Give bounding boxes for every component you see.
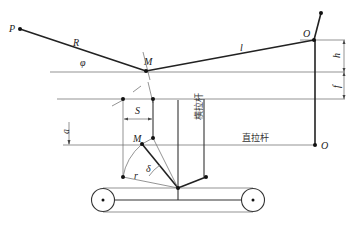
f-arrow-top <box>343 72 346 76</box>
h-arrow-bottom <box>343 68 346 72</box>
lower-arm-right <box>178 177 206 188</box>
left-pulley-center <box>102 199 105 202</box>
label-O-lower: O <box>321 140 328 151</box>
label-straight-rod: 直拉杆 <box>242 132 269 143</box>
label-transverse-rod: 横拉杆 <box>193 93 204 120</box>
arc-M-swing <box>123 144 142 177</box>
point-M-upper <box>144 69 148 73</box>
label-delta: δ <box>146 163 151 174</box>
point-pivot <box>176 186 180 190</box>
steering-linkage-diagram: P R φ M l O h f S a M δ r O 横拉杆 直拉杆 <box>0 0 358 227</box>
arc-stroke-4 <box>112 100 123 106</box>
label-S: S <box>135 105 140 116</box>
arm-l <box>146 40 314 71</box>
right-pulley-center <box>252 199 255 202</box>
label-l: l <box>240 42 243 53</box>
point-P <box>18 27 22 31</box>
point-S-left <box>121 97 125 101</box>
label-phi: φ <box>80 57 86 68</box>
label-f: f <box>331 84 342 88</box>
label-a: a <box>60 129 71 134</box>
a-arrow <box>68 140 71 145</box>
point-r-end <box>121 175 125 179</box>
point-O-lower <box>313 143 317 147</box>
point-S-right <box>151 97 155 101</box>
label-r: r <box>134 170 138 181</box>
label-M-lower: M <box>132 133 142 144</box>
S-arrow-right <box>148 118 152 121</box>
label-O-upper: O <box>303 28 310 39</box>
label-M-upper: M <box>143 56 153 67</box>
point-M-lower-top <box>151 136 155 140</box>
arc-stroke-3 <box>133 86 141 92</box>
label-h: h <box>331 53 342 58</box>
S-arrow-left <box>124 118 128 121</box>
f-arrow-bottom <box>343 95 346 99</box>
point-O-upper <box>312 38 316 42</box>
label-P: P <box>8 23 15 34</box>
arm-tip <box>314 13 321 40</box>
h-arrow-top <box>343 40 346 44</box>
label-R: R <box>72 37 79 48</box>
point-right-arm <box>204 175 208 179</box>
point-tip <box>319 11 323 15</box>
